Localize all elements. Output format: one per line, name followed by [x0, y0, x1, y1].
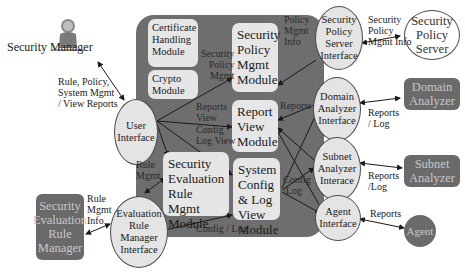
- edge-label-config-log: Config /Log: [283, 174, 311, 196]
- edge-label-rule-mgmt-info: Rule Mgmt Info: [87, 193, 111, 226]
- subnet-analyzer-node[interactable]: Subnet Analyzer: [404, 155, 460, 187]
- label-line: Rule: [87, 193, 111, 204]
- label-line: Security: [201, 48, 234, 59]
- label-line: Mgmt: [136, 170, 160, 181]
- domain-analyzer-interface-node[interactable]: Domain Analyzer Interface: [313, 77, 361, 141]
- report-view-module[interactable]: Report View Module: [232, 100, 278, 152]
- label-line: Info: [284, 36, 310, 47]
- label-line: Rule, Policy,: [58, 76, 118, 87]
- label-line: Rule: [136, 159, 160, 170]
- label-line: Policy: [201, 59, 234, 70]
- label-line: Mgmt: [87, 204, 111, 215]
- edge-label-agent-reports: Reports: [370, 208, 401, 219]
- label-line: Config: [196, 124, 236, 135]
- label-line: Mgmt: [284, 25, 310, 36]
- label-line: Reports: [368, 170, 399, 181]
- security-policy-mgmt-module[interactable]: Security Policy Mgmt Module: [232, 23, 278, 92]
- system-config-log-view-module[interactable]: System Config & Log View Module: [233, 158, 280, 220]
- edge-label-manager-ui: Rule, Policy, System Mgmt / View Reports: [58, 76, 118, 109]
- security-manager-label: Security Manager: [7, 40, 93, 54]
- agent-node[interactable]: Agent: [404, 215, 436, 247]
- edge-label-config-log-bottom: Config / Log: [196, 223, 248, 234]
- edge-label-subnet-reports-log: Reports /Log: [368, 170, 399, 192]
- domain-analyzer-node[interactable]: Domain Analyzer: [404, 78, 460, 110]
- label-line: / View Reports: [58, 98, 118, 109]
- label-line: Mgmt: [201, 70, 234, 81]
- certificate-handling-module[interactable]: Certificate Handling Module: [148, 19, 198, 67]
- user-interface-node[interactable]: User Interface: [114, 99, 158, 165]
- label-line: Reports: [368, 107, 399, 118]
- edge-label-rule-mgmt: Rule Mgmt: [136, 159, 160, 181]
- label-line: System Mgmt: [58, 87, 118, 98]
- label-line: View: [196, 112, 227, 123]
- label-line: Policy: [368, 25, 412, 36]
- label-line: Mgmt Info: [368, 36, 412, 47]
- label-line: Security: [368, 14, 412, 25]
- edge-label-config-log-view: Config Log View: [196, 124, 236, 146]
- edge-label-domain-reports-log: Reports / Log: [368, 107, 399, 129]
- crypto-module[interactable]: Crypto Module: [148, 70, 198, 99]
- label-line: Log View: [196, 135, 236, 146]
- edge-label-policy-mgmt-info: Policy Mgmt Info: [284, 14, 310, 47]
- label-line: /Log: [368, 181, 399, 192]
- security-evaluation-rule-manager-node[interactable]: Security Evaluation Rule Manager: [36, 194, 84, 260]
- agent-interface-node[interactable]: Agent Interface: [315, 195, 361, 241]
- label-line: Policy: [284, 14, 310, 25]
- edge-label-reports: Reports: [280, 100, 311, 111]
- edge-label-security-policy-mgmt: Security Policy Mgmt: [201, 48, 234, 81]
- label-line: /Log: [283, 185, 311, 196]
- label-line: Reports: [196, 101, 227, 112]
- security-policy-server-interface-node[interactable]: Security Policy Server Interface: [315, 6, 363, 70]
- edge-label-reports-view: Reports View: [196, 101, 227, 123]
- evaluation-rule-manager-interface-node[interactable]: Evaluation Rule Manager Interface: [110, 196, 168, 268]
- security-evaluation-rule-mgmt-module[interactable]: Security Evaluation Rule Mgmt Module: [163, 152, 229, 216]
- security-policy-server-node[interactable]: Security Policy Server: [404, 10, 460, 60]
- subnet-analyzer-interface-node[interactable]: Subnet Analyzer Interace: [313, 137, 361, 201]
- label-line: Info: [87, 215, 111, 226]
- edge-label-sps-external: Security Policy Mgmt Info: [368, 14, 412, 47]
- label-line: / Log: [368, 118, 399, 129]
- label-line: Config: [283, 174, 311, 185]
